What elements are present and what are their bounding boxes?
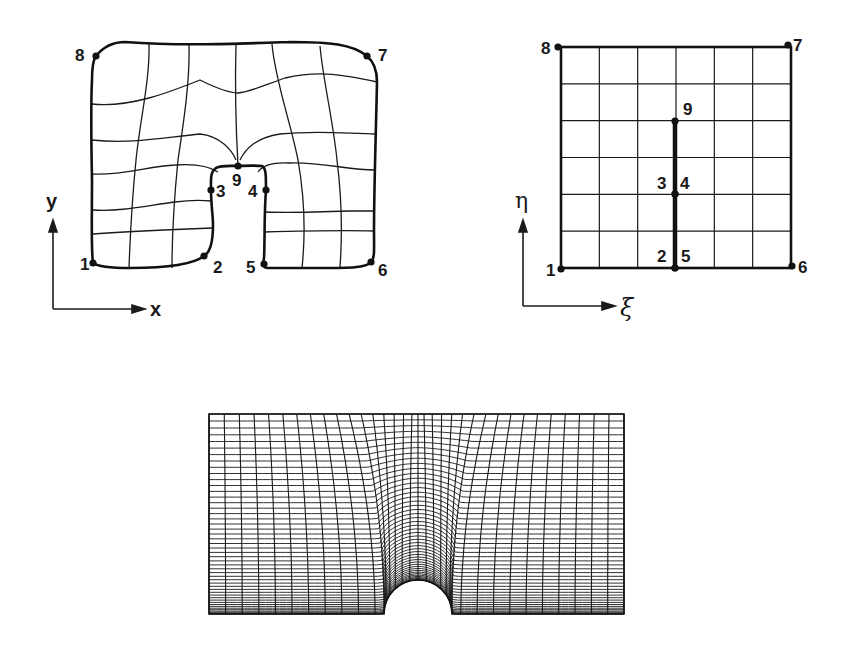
physical-domain-panel: 123456789 y x [46, 42, 387, 320]
node-7-label: 7 [793, 36, 802, 55]
physical-grid-lines [92, 44, 377, 268]
eta-axis-arrow-icon [519, 220, 527, 232]
xi-axis-arrow-icon [602, 302, 615, 310]
xi-axis-label: ξ [620, 294, 635, 322]
mesh-lines [209, 414, 624, 614]
node-2-label: 2 [213, 258, 222, 277]
node-9-icon [234, 162, 241, 169]
node-4-icon [671, 190, 678, 197]
node-1-icon [89, 259, 96, 266]
node-3-label: 3 [216, 182, 225, 201]
x-axis-arrow-icon [132, 305, 145, 313]
node-8-icon [92, 52, 99, 59]
node-1-icon [557, 265, 564, 272]
node-1-label: 1 [546, 261, 555, 280]
node-5-label: 5 [681, 247, 690, 266]
mesh-circumferential-lines [209, 414, 624, 614]
generated-mesh-panel [209, 414, 624, 614]
node-6-icon [788, 262, 795, 269]
node-5-label: 5 [246, 258, 255, 277]
node-6-label: 6 [798, 258, 807, 277]
eta-axis-label: η [515, 188, 528, 213]
node-8-label: 8 [75, 46, 84, 65]
node-9-label: 9 [232, 171, 241, 190]
node-6-label: 6 [378, 261, 387, 280]
y-axis-label: y [46, 190, 58, 212]
y-axis-arrow-icon [49, 220, 57, 232]
node-5-icon [671, 264, 678, 271]
node-8-icon [554, 43, 561, 50]
node-7-icon [363, 52, 370, 59]
node-4-icon [262, 186, 269, 193]
grid-generation-figure: 123456789 y x 123456789 η ξ [0, 0, 851, 666]
node-4-label: 4 [680, 174, 690, 193]
node-3-icon [207, 186, 214, 193]
computational-domain-panel: 123456789 η ξ [515, 36, 807, 322]
x-axis-label: x [150, 298, 161, 320]
node-2-icon [200, 252, 207, 259]
node-9-label: 9 [683, 100, 692, 119]
node-7-label: 7 [378, 46, 387, 65]
node-8-label: 8 [541, 39, 550, 58]
node-6-icon [367, 258, 374, 265]
node-4-label: 4 [248, 182, 258, 201]
node-1-label: 1 [80, 255, 89, 274]
node-7-icon [784, 41, 791, 48]
node-5-icon [260, 260, 267, 267]
xi-eta-axes [519, 220, 615, 310]
node-2-label: 2 [657, 247, 666, 266]
node-9-icon [671, 117, 678, 124]
node-3-label: 3 [657, 174, 666, 193]
